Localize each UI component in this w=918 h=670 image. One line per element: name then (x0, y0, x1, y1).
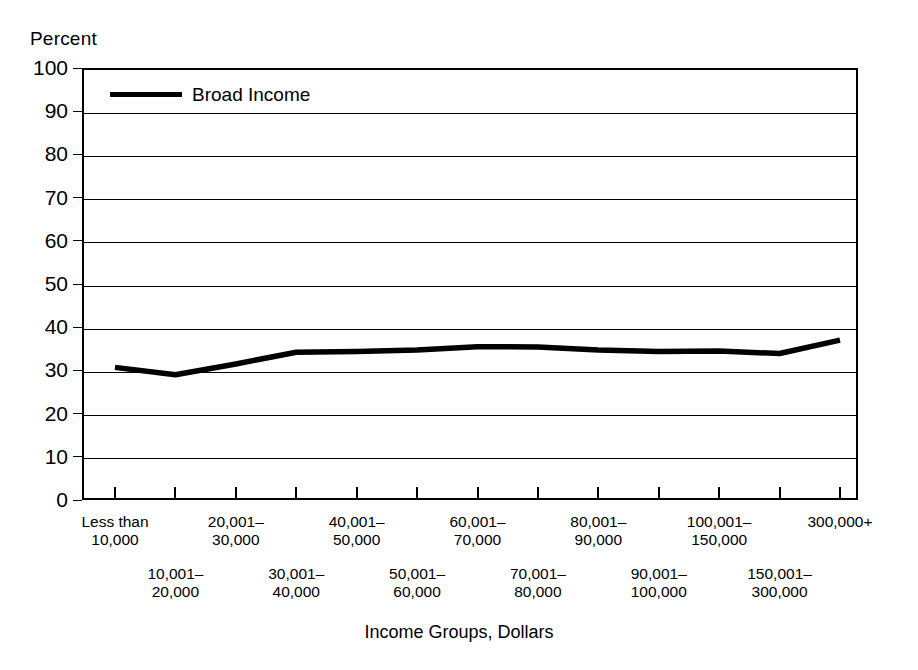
x-category-label: 10,001–20,000 (147, 565, 203, 600)
gridline (84, 329, 856, 330)
y-tick-mark (73, 240, 82, 241)
x-category-label-line2: 60,000 (389, 583, 445, 601)
x-category-label: 150,001–300,000 (747, 565, 812, 600)
y-tick-mark (73, 197, 82, 198)
x-tick-mark (839, 487, 841, 500)
x-category-label-line2: 20,000 (147, 583, 203, 601)
x-tick-mark (416, 487, 418, 500)
x-category-label-line1: 80,001– (570, 513, 626, 531)
y-tick-label: 70 (22, 187, 68, 208)
y-tick-label: 0 (22, 489, 68, 510)
x-tick-mark (779, 487, 781, 500)
y-tick-mark (73, 456, 82, 457)
gridline (84, 415, 856, 416)
x-category-label-line2: 150,000 (687, 531, 752, 549)
x-category-label-line2: 70,000 (449, 531, 505, 549)
y-tick-label: 90 (22, 100, 68, 121)
x-category-label-line2: 30,000 (208, 531, 264, 549)
x-category-label: 100,001–150,000 (687, 513, 752, 548)
x-category-label: 40,001–50,000 (329, 513, 385, 548)
gridline (84, 156, 856, 157)
x-category-label: 30,001–40,000 (268, 565, 324, 600)
x-category-label-line2: 50,000 (329, 531, 385, 549)
plot-area (82, 68, 858, 500)
x-category-label-line1: 60,001– (449, 513, 505, 531)
gridline (84, 242, 856, 243)
x-category-label-line2: 80,000 (510, 583, 566, 601)
y-tick-label: 30 (22, 359, 68, 380)
x-category-label-line1: 90,001– (631, 565, 687, 583)
x-category-label-line2: 40,000 (268, 583, 324, 601)
x-category-label-line2: 90,000 (570, 531, 626, 549)
y-tick-mark (73, 111, 82, 112)
chart-figure: Percent 1009080706050403020100 Broad Inc… (0, 0, 918, 670)
gridline (84, 458, 856, 459)
x-tick-mark (356, 487, 358, 500)
y-tick-label: 40 (22, 316, 68, 337)
x-tick-mark (718, 487, 720, 500)
y-tick-mark (73, 68, 82, 69)
x-tick-mark (114, 487, 116, 500)
x-category-label-line1: 300,000+ (807, 513, 872, 531)
x-category-label: 60,001–70,000 (449, 513, 505, 548)
x-tick-mark (295, 487, 297, 500)
x-tick-mark (658, 487, 660, 500)
legend-line-swatch (110, 92, 182, 97)
y-axis-title: Percent (30, 28, 97, 50)
y-tick-mark (73, 327, 82, 328)
y-tick-mark (73, 500, 82, 501)
gridline (84, 372, 856, 373)
y-tick-label: 100 (22, 57, 68, 78)
x-category-label: Less than10,000 (81, 513, 148, 548)
x-category-label-line1: 100,001– (687, 513, 752, 531)
y-tick-label: 80 (22, 143, 68, 164)
x-category-label: 20,001–30,000 (208, 513, 264, 548)
x-tick-mark (597, 487, 599, 500)
x-tick-mark (235, 487, 237, 500)
x-category-label-line1: Less than (81, 513, 148, 531)
x-category-label-line2: 300,000 (747, 583, 812, 601)
y-tick-mark (73, 413, 82, 414)
y-tick-label: 20 (22, 403, 68, 424)
y-tick-mark (73, 370, 82, 371)
x-tick-mark (477, 487, 479, 500)
y-tick-mark (73, 284, 82, 285)
x-category-label: 80,001–90,000 (570, 513, 626, 548)
x-category-label-line2: 10,000 (81, 531, 148, 549)
gridline (84, 199, 856, 200)
y-tick-label: 60 (22, 230, 68, 251)
x-tick-mark (174, 487, 176, 500)
x-category-label-line2: 100,000 (631, 583, 687, 601)
gridline (84, 286, 856, 287)
x-category-label-line1: 10,001– (147, 565, 203, 583)
x-category-label: 70,001–80,000 (510, 565, 566, 600)
x-category-label-line1: 20,001– (208, 513, 264, 531)
gridline (84, 113, 856, 114)
y-tick-label: 50 (22, 273, 68, 294)
x-axis-title: Income Groups, Dollars (0, 622, 918, 643)
x-category-label-line1: 150,001– (747, 565, 812, 583)
y-tick-mark (73, 154, 82, 155)
x-category-label-line1: 50,001– (389, 565, 445, 583)
y-tick-label: 10 (22, 446, 68, 467)
legend-label-broad-income: Broad Income (192, 85, 310, 104)
x-category-label: 90,001–100,000 (631, 565, 687, 600)
x-category-label: 300,000+ (807, 513, 872, 531)
x-category-label: 50,001–60,000 (389, 565, 445, 600)
x-category-label-line1: 30,001– (268, 565, 324, 583)
x-tick-mark (537, 487, 539, 500)
x-category-label-line1: 70,001– (510, 565, 566, 583)
x-category-label-line1: 40,001– (329, 513, 385, 531)
